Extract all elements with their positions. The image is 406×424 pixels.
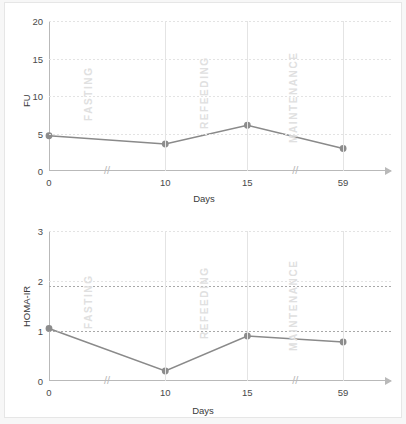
plot-area-top: 051015200101559//// [49, 21, 391, 171]
plot-area-bottom: 01230101559//// [49, 231, 391, 381]
y-axis-label-top: FU [21, 94, 32, 107]
x-axis-tick-label: 10 [160, 177, 171, 188]
chart-panel-fu: FU 051015200101559//// Days FASTINGREFEE… [5, 3, 402, 209]
gridline-y [49, 231, 391, 232]
x-axis-tick-label: 15 [242, 387, 253, 398]
y-axis-tick-label: 10 [32, 91, 43, 102]
axis-break-mark: // [292, 165, 298, 176]
chart-panel-homair: 01230101559//// FASTINGREFEEDINGMAINTENA… [5, 209, 402, 418]
y-axis-tick-label: 2 [38, 276, 43, 287]
axis-break-mark: // [104, 375, 110, 386]
gridline-x [343, 21, 344, 171]
reference-line [49, 286, 391, 287]
gridline-x [165, 231, 166, 381]
y-axis-tick-label: 0 [38, 376, 43, 387]
gridline-y [49, 281, 391, 282]
axis-break-mark: // [104, 165, 110, 176]
gridline-y [49, 96, 391, 97]
gridline-y [49, 134, 391, 135]
y-axis-tick-label: 15 [32, 53, 43, 64]
y-axis-tick-label: 0 [38, 166, 43, 177]
x-axis-tick-label: 59 [338, 387, 349, 398]
gridline-x [247, 231, 248, 381]
gridline-x [165, 21, 166, 171]
axis-break-mark: // [292, 375, 298, 386]
y-axis-label-bottom: HOMA-IR [21, 286, 32, 327]
y-axis-tick-label: 3 [38, 226, 43, 237]
series-line-homair [49, 231, 391, 381]
x-axis-tick-label: 59 [338, 177, 349, 188]
y-axis-tick-label: 5 [38, 128, 43, 139]
series-polyline [49, 329, 343, 372]
y-axis-tick-label: 20 [32, 16, 43, 27]
figure-frame: FU 051015200101559//// Days FASTINGREFEE… [4, 2, 402, 418]
gridline-y [49, 21, 391, 22]
series-polyline [49, 125, 343, 148]
x-axis-tick-label: 0 [46, 177, 51, 188]
x-axis-tick-label: 15 [242, 177, 253, 188]
reference-line [49, 331, 391, 332]
gridline-y [49, 59, 391, 60]
gridline-x [343, 231, 344, 381]
x-axis-label-top: Days [5, 193, 402, 204]
x-axis-tick-label: 10 [160, 387, 171, 398]
x-axis-tick-label: 0 [46, 387, 51, 398]
x-axis-label-bottom: Days [5, 405, 401, 416]
y-axis-tick-label: 1 [38, 326, 43, 337]
gridline-x [247, 21, 248, 171]
